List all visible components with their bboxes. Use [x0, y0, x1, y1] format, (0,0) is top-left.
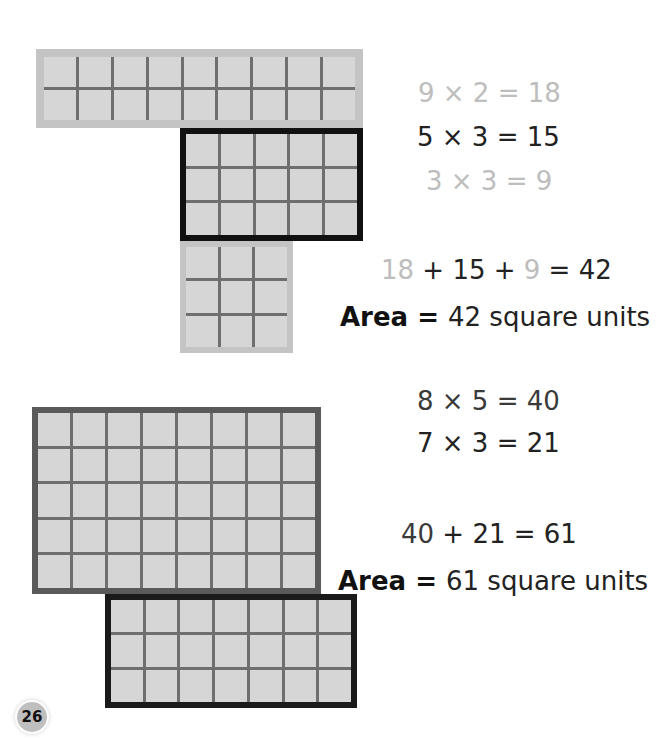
unit-square — [180, 635, 212, 667]
sum-equation-1: 18 + 15 + 9 = 42 — [381, 255, 612, 285]
unit-square — [186, 316, 218, 347]
sum-result: + 21 = 61 — [434, 519, 577, 549]
unit-square — [184, 90, 216, 120]
unit-square — [114, 90, 146, 120]
unit-square — [178, 449, 210, 482]
area-unit: square units — [479, 566, 648, 596]
unit-square — [38, 555, 70, 588]
unit-square — [186, 281, 218, 312]
square-3-by-3 — [180, 241, 293, 353]
unit-square — [186, 203, 218, 235]
unit-square — [253, 57, 285, 87]
unit-square — [215, 670, 247, 702]
unit-square — [178, 555, 210, 588]
unit-square — [79, 90, 111, 120]
unit-square — [178, 520, 210, 553]
unit-square — [221, 316, 253, 347]
unit-square — [146, 670, 178, 702]
unit-square — [255, 281, 287, 312]
unit-square — [143, 520, 175, 553]
unit-square — [186, 247, 218, 278]
equation-5x3: 5 × 3 = 15 — [417, 122, 560, 152]
sum-equation-2: 40 + 21 = 61 — [401, 519, 577, 549]
unit-square — [256, 134, 288, 166]
unit-square — [73, 449, 105, 482]
unit-square — [44, 90, 76, 120]
rectangle-8-by-5 — [32, 407, 321, 594]
unit-square — [250, 670, 282, 702]
unit-square — [319, 670, 351, 702]
unit-square — [73, 520, 105, 553]
unit-square — [221, 134, 253, 166]
unit-square — [283, 449, 315, 482]
unit-square — [79, 57, 111, 87]
unit-square — [114, 57, 146, 87]
unit-square — [184, 57, 216, 87]
unit-square — [283, 484, 315, 517]
unit-square — [186, 169, 218, 201]
unit-square — [285, 600, 317, 632]
unit-square — [108, 484, 140, 517]
unit-square — [218, 57, 250, 87]
unit-square — [213, 555, 245, 588]
unit-square — [325, 203, 357, 235]
unit-square — [290, 134, 322, 166]
equation-3x3: 3 × 3 = 9 — [426, 166, 552, 196]
equation-7x3: 7 × 3 = 21 — [417, 428, 560, 458]
unit-square — [111, 600, 143, 632]
unit-square — [218, 90, 250, 120]
page-number-badge: 26 — [15, 700, 49, 734]
unit-square — [288, 90, 320, 120]
unit-square — [38, 449, 70, 482]
unit-square — [213, 449, 245, 482]
unit-square — [255, 247, 287, 278]
unit-square — [221, 169, 253, 201]
unit-square — [108, 413, 140, 446]
area-equals: = — [408, 302, 448, 332]
unit-square — [73, 484, 105, 517]
unit-square — [325, 169, 357, 201]
sum-term-40: 40 — [401, 519, 434, 549]
unit-square — [319, 600, 351, 632]
unit-square — [111, 670, 143, 702]
unit-square — [178, 484, 210, 517]
equation-9x2: 9 × 2 = 18 — [418, 78, 561, 108]
unit-square — [248, 413, 280, 446]
unit-square — [285, 670, 317, 702]
area-equals: = — [406, 566, 446, 596]
sum-result: = 42 — [540, 255, 611, 285]
unit-square — [180, 670, 212, 702]
area-value: 61 — [446, 566, 479, 596]
rectangle-7-by-3 — [105, 594, 357, 708]
unit-square — [143, 484, 175, 517]
unit-square — [180, 600, 212, 632]
unit-square — [149, 90, 181, 120]
rectangle-5-by-3 — [180, 128, 363, 241]
unit-square — [213, 484, 245, 517]
unit-square — [248, 555, 280, 588]
unit-square — [283, 413, 315, 446]
unit-square — [256, 169, 288, 201]
unit-square — [73, 555, 105, 588]
unit-square — [290, 203, 322, 235]
unit-square — [44, 57, 76, 87]
unit-square — [290, 169, 322, 201]
unit-square — [221, 247, 253, 278]
unit-square — [221, 203, 253, 235]
unit-square — [255, 316, 287, 347]
sum-middle: + 15 + — [414, 255, 524, 285]
unit-square — [108, 555, 140, 588]
unit-square — [73, 413, 105, 446]
unit-square — [248, 449, 280, 482]
unit-square — [256, 203, 288, 235]
unit-square — [325, 134, 357, 166]
unit-square — [178, 413, 210, 446]
unit-square — [146, 600, 178, 632]
unit-square — [285, 635, 317, 667]
equation-8x5: 8 × 5 = 40 — [417, 386, 560, 416]
sum-term-9: 9 — [524, 255, 541, 285]
rectangle-9-by-2 — [36, 49, 363, 128]
area-value: 42 — [448, 302, 481, 332]
area-unit: square units — [481, 302, 650, 332]
area-label: Area — [340, 302, 408, 332]
